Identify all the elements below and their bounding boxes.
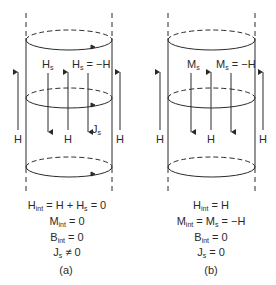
label-js: Js bbox=[92, 124, 101, 135]
equation-b-3: Bint = 0 bbox=[194, 232, 227, 243]
label-h-left-b: H bbox=[156, 134, 164, 145]
caption-b: (b) bbox=[204, 265, 217, 276]
equation-b-2: Mint = Ms = −H bbox=[177, 216, 246, 227]
equation-b-4: Js = 0 bbox=[197, 247, 225, 258]
equation-a-2: Mint = 0 bbox=[49, 216, 84, 227]
label-hs-a: Hs bbox=[42, 59, 53, 70]
diagram-canvas bbox=[0, 0, 276, 285]
equation-a-1: Hint = H + Hs = 0 bbox=[28, 200, 106, 211]
label-h-center-a: H bbox=[64, 134, 72, 145]
label-h-right-b: H bbox=[259, 134, 267, 145]
label-h-center-b: H bbox=[207, 134, 215, 145]
label-h-right-a: H bbox=[116, 134, 124, 145]
field-arrows-b bbox=[160, 72, 263, 132]
equation-a-4: Js ≠ 0 bbox=[53, 247, 80, 258]
label-hs-equals-minus-h: Hs = −H bbox=[72, 59, 110, 70]
equation-a-3: Bint = 0 bbox=[50, 232, 83, 243]
field-arrows-a bbox=[18, 72, 120, 132]
label-h-left-a: H bbox=[14, 134, 22, 145]
label-ms-b: Ms bbox=[187, 59, 200, 70]
equation-b-1: Hint = H bbox=[193, 200, 229, 211]
label-ms-equals-minus-h: Ms = −H bbox=[216, 59, 256, 70]
cylinder-a bbox=[26, 13, 112, 194]
caption-a: (a) bbox=[59, 265, 72, 276]
